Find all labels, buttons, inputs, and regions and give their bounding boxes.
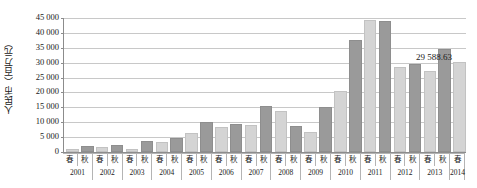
bar-2007-spring <box>245 125 257 152</box>
x-season-label: 秋 <box>316 153 331 166</box>
x-season-label: 春 <box>450 153 465 166</box>
bar-2003-spring <box>126 149 138 152</box>
x-season-label: 春 <box>152 153 167 166</box>
bar-2004-autumn <box>170 138 182 152</box>
y-tick-label: 45 000 <box>36 13 59 22</box>
x-year-label-2002: 2002 <box>93 166 123 180</box>
bar-2010-autumn <box>349 40 361 152</box>
x-season-label: 春 <box>123 153 138 166</box>
y-tick-label: 20 000 <box>36 87 59 96</box>
bar-chart: 人民币（百万元） 45 00040 00035 00030 00025 0002… <box>0 0 477 188</box>
bar-2004-spring <box>156 142 168 152</box>
x-axis-season-row: 春秋春秋春秋春秋春秋春秋春秋春秋春秋春秋春秋春秋春秋春 <box>63 153 465 166</box>
x-year-label-2006: 2006 <box>212 166 242 180</box>
x-year-label-2014: 2014 <box>450 166 465 180</box>
x-year-label-2007: 2007 <box>242 166 272 180</box>
bar-2002-spring <box>96 147 108 152</box>
x-season-label: 秋 <box>405 153 420 166</box>
x-season-label: 春 <box>361 153 376 166</box>
x-year-label-2008: 2008 <box>271 166 301 180</box>
y-tick-label: 25 000 <box>36 73 59 82</box>
y-axis-title: 人民币（百万元） <box>0 0 16 152</box>
x-axis: 春秋春秋春秋春秋春秋春秋春秋春秋春秋春秋春秋春秋春秋春 200120022003… <box>63 153 465 188</box>
x-season-label: 春 <box>212 153 227 166</box>
x-season-label: 秋 <box>286 153 301 166</box>
bar-2008-autumn <box>290 126 302 152</box>
x-season-label: 春 <box>182 153 197 166</box>
bar-2005-autumn <box>200 122 212 152</box>
bar-2011-autumn <box>379 21 391 152</box>
bar-2009-autumn <box>319 107 331 152</box>
bar-2001-autumn <box>81 146 93 152</box>
bar-2009-spring <box>304 132 316 152</box>
y-tick-label: 15 000 <box>36 102 59 111</box>
bars-container <box>64 18 466 152</box>
bar-2008-spring <box>275 111 287 152</box>
bar-2014-spring <box>453 62 465 152</box>
bar-2005-spring <box>185 133 197 152</box>
x-season-label: 秋 <box>137 153 152 166</box>
bar-2012-autumn <box>409 64 421 152</box>
y-axis-tick-labels: 45 00040 00035 00030 00025 00020 00015 0… <box>16 0 61 188</box>
bar-2001-spring <box>66 149 78 152</box>
bar-2011-spring <box>364 20 376 152</box>
bar-2007-autumn <box>260 106 272 152</box>
x-season-label: 秋 <box>227 153 242 166</box>
x-season-label: 秋 <box>257 153 272 166</box>
x-season-label: 春 <box>391 153 406 166</box>
bar-2002-autumn <box>111 145 123 152</box>
x-season-label: 春 <box>242 153 257 166</box>
x-season-label: 春 <box>420 153 435 166</box>
x-year-label-2004: 2004 <box>152 166 182 180</box>
x-season-label: 秋 <box>197 153 212 166</box>
x-season-label: 春 <box>271 153 286 166</box>
y-tick-label: 5 000 <box>40 132 59 141</box>
x-season-label: 秋 <box>78 153 93 166</box>
bar-2003-autumn <box>141 141 153 152</box>
x-year-label-2012: 2012 <box>391 166 421 180</box>
x-axis-year-row: 2001200220032004200520062007200820092010… <box>63 166 465 180</box>
x-season-label: 秋 <box>376 153 391 166</box>
bar-2013-spring <box>424 71 436 152</box>
y-tick-label: 0 <box>55 147 59 156</box>
y-tick-label: 30 000 <box>36 58 59 67</box>
x-season-label: 秋 <box>108 153 123 166</box>
x-year-label-2013: 2013 <box>420 166 450 180</box>
x-season-label: 春 <box>301 153 316 166</box>
x-season-label: 春 <box>331 153 346 166</box>
bar-2006-autumn <box>230 124 242 152</box>
x-season-label: 秋 <box>167 153 182 166</box>
bar-2006-spring <box>215 127 227 152</box>
x-season-label: 春 <box>93 153 108 166</box>
x-season-label: 秋 <box>346 153 361 166</box>
data-value-label: 29 588.63 <box>416 52 452 62</box>
x-season-label: 秋 <box>435 153 450 166</box>
x-year-label-2011: 2011 <box>361 166 391 180</box>
bar-2012-spring <box>394 67 406 152</box>
y-tick-label: 40 000 <box>36 28 59 37</box>
y-tick-label: 35 000 <box>36 43 59 52</box>
x-year-label-2003: 2003 <box>123 166 153 180</box>
y-axis-title-label: 人民币（百万元） <box>3 38 13 114</box>
x-year-label-2005: 2005 <box>182 166 212 180</box>
x-year-label-2010: 2010 <box>331 166 361 180</box>
bar-2010-spring <box>334 91 346 152</box>
plot-area <box>63 18 466 153</box>
x-year-label-2001: 2001 <box>63 166 93 180</box>
x-year-label-2009: 2009 <box>301 166 331 180</box>
y-tick-label: 10 000 <box>36 117 59 126</box>
x-season-label: 春 <box>63 153 78 166</box>
bar-2013-autumn <box>438 49 450 152</box>
